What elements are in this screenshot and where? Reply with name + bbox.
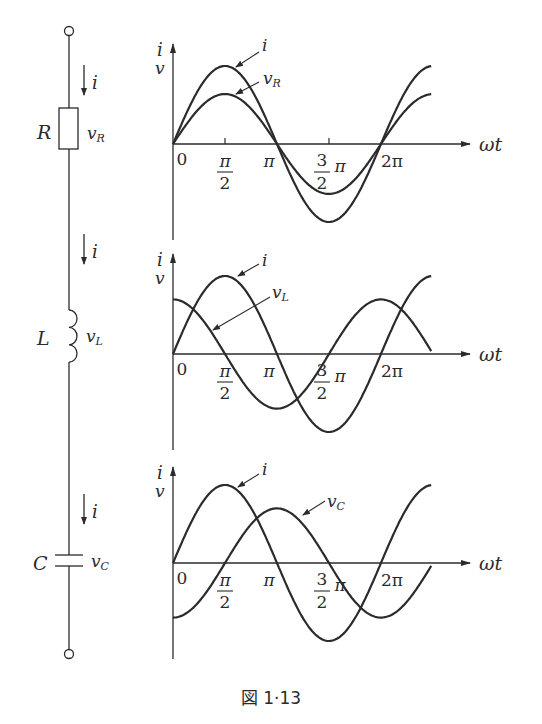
y-axis-label-i: i xyxy=(157,462,163,483)
tick-label-pi-over-2: 2 xyxy=(220,592,231,612)
origin-label: 0 xyxy=(177,149,188,169)
y-axis-label-v: v xyxy=(155,58,165,78)
curve-label: vL xyxy=(272,282,289,304)
capacitor-label: C xyxy=(33,552,48,574)
tick-label-pi-over-2: π xyxy=(218,361,231,381)
resistor-label: R xyxy=(36,121,51,143)
tick-label-3-over-2-pi: π xyxy=(333,366,346,386)
y-axis-label-i: i xyxy=(157,249,163,270)
capacitor-voltage-label: vC xyxy=(91,551,110,573)
tick-label-3-over-2-pi: π xyxy=(333,156,346,176)
y-axis-label-v: v xyxy=(155,268,165,288)
curve-label: i xyxy=(262,35,267,55)
callout-arrow-icon xyxy=(213,297,270,330)
tick-label-3-over-2-pi: 2 xyxy=(317,173,328,193)
x-axis-label: ωt xyxy=(479,133,502,155)
resistor-symbol xyxy=(59,108,78,149)
tick-label-3-over-2-pi: 2 xyxy=(317,592,328,612)
current-label: i xyxy=(92,241,98,262)
y-axis-label-v: v xyxy=(155,481,165,501)
tick-label-3-over-2-pi: 3 xyxy=(317,150,328,170)
bottom-terminal xyxy=(65,650,74,659)
inductor-symbol xyxy=(69,310,77,362)
curve-label: i xyxy=(262,250,267,270)
chart-0: ivωt0π2π32π2π xyxy=(155,39,502,240)
tick-label-pi-over-2: 2 xyxy=(220,173,231,193)
inductor-voltage-label: vL xyxy=(86,326,103,348)
figure-1-13: i i i R vR L vL C vC ivωt0π2π32π2πivωt0π… xyxy=(0,0,542,724)
top-terminal xyxy=(65,27,74,36)
waveform-charts: ivωt0π2π32π2πivωt0π2π32π2πivωt0π2π32π2πi… xyxy=(155,35,502,659)
tick-label-3-over-2-pi: π xyxy=(333,575,346,595)
callout-arrow-icon xyxy=(238,264,259,276)
circuit-diagram xyxy=(55,27,84,659)
tick-label-3-over-2-pi: 3 xyxy=(317,360,328,380)
curve-label: vR xyxy=(263,68,281,90)
tick-label-pi-over-2: π xyxy=(218,151,231,171)
current-label: i xyxy=(92,501,98,522)
tick-label-pi: π xyxy=(262,570,275,590)
chart-1: ivωt0π2π32π2π xyxy=(155,249,502,450)
current-label: i xyxy=(92,72,98,93)
figure-caption: 図 1·13 xyxy=(241,688,301,708)
callout-arrow-icon xyxy=(238,474,259,487)
origin-label: 0 xyxy=(177,359,188,379)
x-axis-label: ωt xyxy=(479,552,502,574)
tick-label-pi-over-2: π xyxy=(218,570,231,590)
tick-label-2pi: 2π xyxy=(381,151,403,171)
tick-label-pi: π xyxy=(262,361,275,381)
callout-arrow-icon xyxy=(303,501,325,515)
tick-label-pi-over-2: 2 xyxy=(220,383,231,403)
resistor-voltage-label: vR xyxy=(87,123,105,145)
tick-label-3-over-2-pi: 3 xyxy=(317,569,328,589)
tick-label-pi: π xyxy=(262,151,275,171)
curve-label: vC xyxy=(327,491,346,513)
origin-label: 0 xyxy=(177,568,188,588)
callout-arrow-icon xyxy=(236,52,259,67)
x-axis-label: ωt xyxy=(479,343,502,365)
tick-label-2pi: 2π xyxy=(381,570,403,590)
inductor-label: L xyxy=(36,327,50,349)
tick-label-3-over-2-pi: 2 xyxy=(317,383,328,403)
curve-label: i xyxy=(262,459,267,479)
tick-label-2pi: 2π xyxy=(381,361,403,381)
y-axis-label-i: i xyxy=(157,39,163,60)
